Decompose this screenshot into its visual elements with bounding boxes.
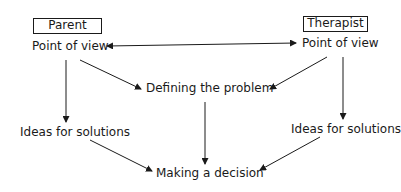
making-a-decision: Making a decision <box>156 166 264 180</box>
edge-parent-pov-to-defining <box>80 60 141 89</box>
edge-pov-bidirectional <box>107 43 296 46</box>
parent-role-box: Parent <box>33 18 102 34</box>
therapist-role-box: Therapist <box>303 16 368 32</box>
defining-the-problem: Defining the problem <box>146 81 273 95</box>
therapist-ideas-for-solutions: Ideas for solutions <box>291 122 401 136</box>
edge-parent-ideas-to-decision <box>90 140 152 171</box>
edge-therapist-pov-to-defining <box>270 57 327 89</box>
parent-role-label: Parent <box>48 18 86 32</box>
parent-ideas-for-solutions: Ideas for solutions <box>20 125 130 139</box>
therapist-point-of-view: Point of view <box>302 36 379 50</box>
edge-therapist-ideas-to-decision <box>260 137 320 170</box>
therapist-role-label: Therapist <box>307 16 364 30</box>
parent-point-of-view: Point of view <box>32 39 109 53</box>
